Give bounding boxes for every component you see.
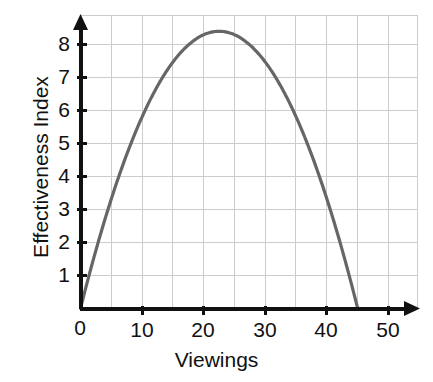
- grid-vertical-lines: [81, 15, 418, 309]
- chart-figure: 8 7 6 5 4 3 2 1 0 10 20 30 40 50 Viewing…: [0, 0, 433, 382]
- x-tick-label-20: 20: [183, 318, 223, 342]
- data-curve-effectiveness: [81, 31, 358, 308]
- x-tick-label-0: 0: [60, 316, 100, 340]
- y-axis-title: Effectiveness Index: [29, 17, 53, 317]
- x-tick-label-10: 10: [122, 318, 162, 342]
- x-axis: [80, 301, 420, 316]
- x-tick-label-40: 40: [306, 318, 346, 342]
- x-tick-label-30: 30: [245, 318, 285, 342]
- x-axis-title: Viewings: [0, 348, 433, 372]
- y-axis: [73, 14, 88, 309]
- x-tick-label-50: 50: [368, 318, 408, 342]
